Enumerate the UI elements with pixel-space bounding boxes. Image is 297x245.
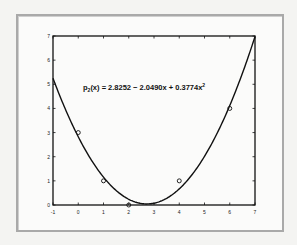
equation-body: (x) = 2.8252 − 2.0490x + 0.3774x (90, 83, 203, 92)
x-tick-label: 4 (178, 209, 181, 215)
equation-annotation: p2(x) = 2.8252 − 2.0490x + 0.3774x2 (83, 82, 205, 93)
y-tick-label: 7 (47, 33, 50, 39)
x-tick-label: -1 (51, 209, 56, 215)
x-tick-label: 2 (127, 209, 130, 215)
fit-curve (53, 37, 255, 204)
data-point-marker (177, 179, 181, 183)
x-tick-label: 3 (153, 209, 156, 215)
x-axis-ticks: -101234567 (51, 36, 257, 215)
x-tick-label: 6 (228, 209, 231, 215)
data-points (76, 106, 232, 207)
axes (53, 36, 255, 205)
x-tick-label: 1 (102, 209, 105, 215)
y-tick-label: 4 (47, 105, 50, 111)
fit-curve-group (53, 37, 255, 204)
x-tick-label: 0 (77, 209, 80, 215)
x-tick-label: 7 (254, 209, 257, 215)
x-tick-label: 5 (203, 209, 206, 215)
data-point-marker (102, 179, 106, 183)
y-tick-label: 6 (47, 57, 50, 63)
chart: -101234567 01234567 p2(x) = 2.8252 − 2.0… (0, 0, 297, 245)
equation-superscript: 2 (202, 82, 205, 88)
y-tick-label: 1 (47, 178, 50, 184)
y-tick-label: 2 (47, 154, 50, 160)
y-tick-label: 5 (47, 81, 50, 87)
y-tick-label: 0 (47, 202, 50, 208)
y-tick-label: 3 (47, 130, 50, 136)
plot-area-border (53, 36, 255, 205)
